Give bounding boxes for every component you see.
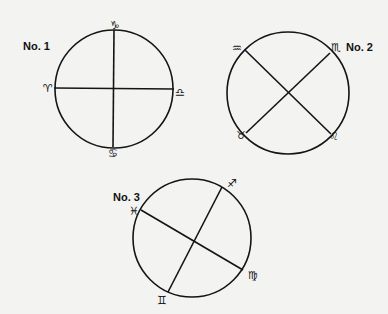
pisces-icon: ♓ (129, 206, 139, 217)
line-capricorn-cancer (113, 30, 114, 147)
capricorn-icon: ♑ (110, 20, 120, 31)
line-pisces-virgo (141, 210, 243, 270)
sagittarius-icon: ♐ (227, 178, 237, 189)
diagram-label-3: No. 3 (113, 192, 140, 203)
diagram-canvas (0, 0, 388, 314)
circle-3 (133, 179, 251, 297)
aquarius-icon: ♒ (232, 43, 242, 54)
zodiac-diagrams-figure: No. 1 No. 2 No. 3 ♑ ♈ ♎ ♋ ♒ ♏ ♉ ♌ ♐ ♓ ♍ … (0, 0, 388, 314)
diagram-no-1 (54, 30, 174, 148)
aries-icon: ♈ (43, 83, 53, 94)
diagram-label-2: No. 2 (346, 42, 373, 53)
scorpio-icon: ♏ (331, 42, 341, 53)
virgo-icon: ♍ (248, 270, 258, 281)
line-sagittarius-gemini (168, 187, 222, 292)
diagram-no-3 (133, 179, 251, 297)
leo-icon: ♌ (329, 131, 339, 142)
diagram-label-1: No. 1 (23, 41, 50, 52)
taurus-icon: ♉ (236, 130, 246, 141)
gemini-icon: ♊ (157, 295, 167, 306)
cancer-icon: ♋ (108, 148, 118, 159)
libra-icon: ♎ (175, 87, 185, 98)
